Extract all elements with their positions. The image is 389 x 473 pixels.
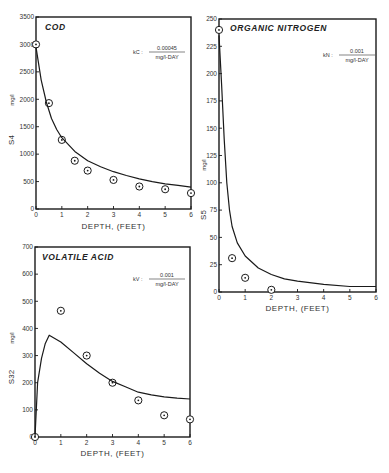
data-point-marker xyxy=(71,157,78,164)
x-tick-label: 5 xyxy=(162,439,166,446)
y-tick-label: 50 xyxy=(210,234,218,241)
y-tick-label: 400 xyxy=(22,325,33,332)
y-tick-label: 500 xyxy=(22,298,33,305)
x-tick-label: 3 xyxy=(112,211,116,218)
x-tick-label: 6 xyxy=(374,294,378,301)
data-point-marker xyxy=(136,183,143,190)
y-tick-label: 700 xyxy=(22,243,33,250)
data-point-marker xyxy=(162,186,169,193)
x-tick-label: 0 xyxy=(34,211,38,218)
svg-text:mg/l-DAY: mg/l-DAY xyxy=(345,57,368,63)
x-tick-label: 3 xyxy=(296,294,300,301)
x-tick-label: 4 xyxy=(138,211,142,218)
x-tick-label: 2 xyxy=(86,211,90,218)
chart-title: ORGANIC NITROGEN xyxy=(230,23,327,33)
chart-volatile-acid: 01234560100200300400500600700DEPTH, (FEE… xyxy=(7,243,194,458)
x-tick-label: 2 xyxy=(85,439,89,446)
data-point-marker xyxy=(135,397,142,404)
data-point-marker xyxy=(268,286,275,293)
y-axis-units: mg/l xyxy=(201,159,207,170)
svg-text:kC :: kC : xyxy=(133,49,143,55)
x-tick-label: 3 xyxy=(111,439,115,446)
y-tick-label: 0 xyxy=(213,288,217,295)
data-point-marker xyxy=(84,167,91,174)
x-tick-label: 1 xyxy=(59,439,63,446)
y-tick-label: 2500 xyxy=(20,68,35,75)
x-tick-label: 1 xyxy=(60,211,64,218)
x-axis-label: DEPTH, (FEET) xyxy=(266,304,330,313)
data-point-marker xyxy=(32,41,39,48)
y-tick-label: 175 xyxy=(206,97,217,104)
svg-text:mg/l-DAY: mg/l-DAY xyxy=(155,281,178,287)
y-tick-label: 225 xyxy=(206,43,217,50)
x-axis-label: DEPTH, (FEET) xyxy=(81,449,145,458)
data-point-marker xyxy=(161,412,168,419)
figure: 01234560500100015002000250030003500DEPTH… xyxy=(0,0,389,473)
y-tick-label: 0 xyxy=(30,205,34,212)
y-tick-label: 2000 xyxy=(20,96,35,103)
y-axis-label: S4 xyxy=(7,135,16,145)
y-tick-label: 150 xyxy=(206,125,217,132)
rate-constant-annotation: kC :0.00045mg/l-DAY xyxy=(133,45,185,60)
chart-cod: 01234560500100015002000250030003500DEPTH… xyxy=(7,13,195,231)
svg-text:0.00045: 0.00045 xyxy=(157,45,177,51)
x-tick-label: 6 xyxy=(189,211,193,218)
y-tick-label: 200 xyxy=(22,379,33,386)
y-tick-label: 125 xyxy=(206,152,217,159)
y-tick-label: 25 xyxy=(210,261,218,268)
y-tick-label: 250 xyxy=(206,15,217,22)
data-point-marker xyxy=(83,352,90,359)
y-axis-label: S5 xyxy=(199,210,208,220)
x-tick-label: 4 xyxy=(137,439,141,446)
data-point-marker xyxy=(242,274,249,281)
svg-text:0.001: 0.001 xyxy=(350,48,364,54)
data-point-marker xyxy=(187,189,194,196)
y-tick-label: 1000 xyxy=(20,150,35,157)
y-tick-label: 100 xyxy=(206,179,217,186)
y-tick-label: 75 xyxy=(210,206,218,213)
x-tick-label: 0 xyxy=(217,294,221,301)
data-point-marker xyxy=(228,255,235,262)
svg-text:kN :: kN : xyxy=(323,52,333,58)
y-tick-label: 600 xyxy=(22,270,33,277)
x-tick-label: 1 xyxy=(243,294,247,301)
y-axis-units: mg/l xyxy=(9,94,15,105)
x-tick-label: 4 xyxy=(322,294,326,301)
y-tick-label: 100 xyxy=(22,406,33,413)
model-curve xyxy=(219,35,376,286)
chart-title: COD xyxy=(45,22,66,32)
data-point-marker xyxy=(215,26,222,33)
x-tick-label: 5 xyxy=(163,211,167,218)
y-axis-label: S32 xyxy=(7,369,16,384)
x-tick-label: 5 xyxy=(348,294,352,301)
data-point-marker xyxy=(110,176,117,183)
svg-text:kV :: kV : xyxy=(133,276,143,282)
x-tick-label: 2 xyxy=(270,294,274,301)
x-tick-label: 6 xyxy=(188,439,192,446)
y-tick-label: 1500 xyxy=(20,123,35,130)
chart-organic-nitrogen: 01234560255075100125150175200225250DEPTH… xyxy=(199,15,378,313)
model-curve xyxy=(36,47,191,187)
svg-text:mg/l-DAY: mg/l-DAY xyxy=(155,54,178,60)
y-axis-units: mg/l xyxy=(9,332,15,343)
svg-text:0.001: 0.001 xyxy=(160,272,174,278)
y-tick-label: 3500 xyxy=(20,13,35,20)
x-axis-label: DEPTH, (FEET) xyxy=(82,222,146,231)
data-point-marker xyxy=(57,307,64,314)
y-tick-label: 500 xyxy=(23,178,34,185)
y-tick-label: 200 xyxy=(206,70,217,77)
y-tick-label: 300 xyxy=(22,352,33,359)
rate-constant-annotation: kV :0.001mg/l-DAY xyxy=(133,272,185,287)
chart-title: VOLATILE ACID xyxy=(42,252,114,262)
data-point-marker xyxy=(186,416,193,423)
rate-constant-annotation: kN :0.001mg/l-DAY xyxy=(323,48,375,63)
